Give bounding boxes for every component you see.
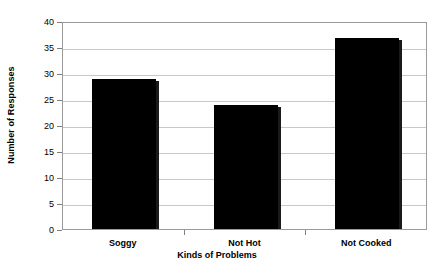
x-axis-tick-label: Not Cooked (341, 238, 392, 248)
y-axis-tick-labels: 0510152025303540 (24, 22, 54, 230)
x-axis-tick-label: Soggy (109, 238, 137, 248)
y-axis-tick-label: 35 (44, 43, 54, 53)
x-axis-title: Kinds of Problems (0, 250, 434, 260)
y-axis-tick-label: 5 (49, 199, 54, 209)
x-axis-separator (184, 230, 185, 235)
y-axis-tick-label: 15 (44, 147, 54, 157)
bar[interactable] (214, 105, 278, 229)
x-axis-tick-label: Not Hot (228, 238, 261, 248)
plot-area (62, 22, 427, 230)
y-axis-tick-mark (57, 230, 62, 231)
y-axis-title: Number of Responses (0, 0, 22, 230)
y-axis-tick-label: 10 (44, 173, 54, 183)
bar[interactable] (92, 79, 156, 229)
y-axis-tick-label: 25 (44, 95, 54, 105)
bar[interactable] (335, 38, 399, 229)
y-axis-tick-label: 40 (44, 17, 54, 27)
y-axis-tick-label: 20 (44, 121, 54, 131)
x-axis-separator (305, 230, 306, 235)
y-axis-tick-label: 0 (49, 225, 54, 235)
bar-chart: Number of Responses 0510152025303540 Sog… (0, 0, 434, 275)
y-axis-tick-label: 30 (44, 69, 54, 79)
y-axis-title-label: Number of Responses (6, 66, 16, 163)
